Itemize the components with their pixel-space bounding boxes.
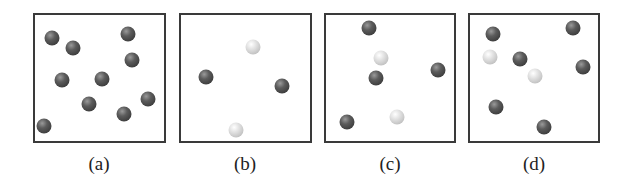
dark-particle-icon	[37, 119, 52, 134]
panel-label-c: (c)	[360, 153, 420, 175]
dark-particle-icon	[486, 27, 501, 42]
dark-particle-icon	[55, 73, 70, 88]
dark-particle-icon	[66, 41, 81, 56]
dark-particle-icon	[362, 21, 377, 36]
panel-label-b: (b)	[215, 153, 275, 175]
light-particle-icon	[390, 110, 405, 125]
light-particle-icon	[374, 51, 389, 66]
dark-particle-icon	[45, 31, 60, 46]
dark-particle-icon	[431, 63, 446, 78]
light-particle-icon	[246, 40, 261, 55]
panel-label-d: (d)	[504, 153, 564, 175]
dark-particle-icon	[513, 52, 528, 67]
dark-particle-icon	[369, 71, 384, 86]
dark-particle-icon	[566, 21, 581, 36]
dark-particle-icon	[125, 53, 140, 68]
light-particle-icon	[229, 123, 244, 138]
dark-particle-icon	[275, 79, 290, 94]
dark-particle-icon	[340, 115, 355, 130]
dark-particle-icon	[489, 100, 504, 115]
dark-particle-icon	[121, 27, 136, 42]
light-particle-icon	[483, 50, 498, 65]
dark-particle-icon	[141, 92, 156, 107]
dark-particle-icon	[117, 107, 132, 122]
dark-particle-icon	[576, 60, 591, 75]
panel-label-a: (a)	[69, 153, 129, 175]
dark-particle-icon	[95, 72, 110, 87]
light-particle-icon	[528, 69, 543, 84]
dark-particle-icon	[537, 120, 552, 135]
dark-particle-icon	[82, 97, 97, 112]
dark-particle-icon	[199, 70, 214, 85]
